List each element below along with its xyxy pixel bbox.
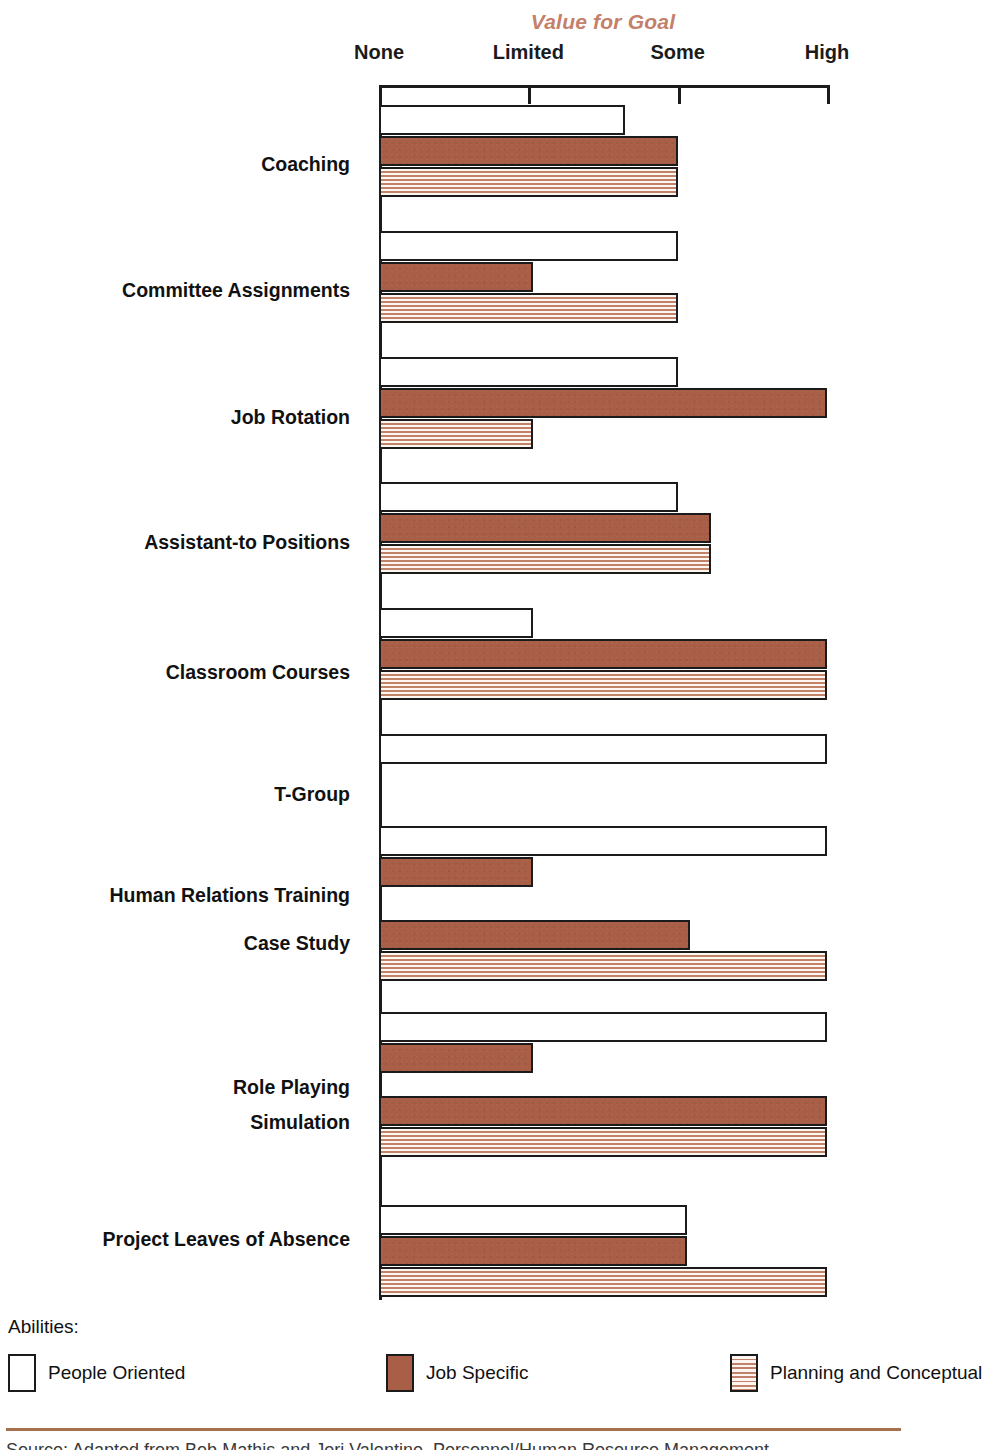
bar-people [379, 357, 678, 387]
legend-label-planning: Planning and Conceptual [770, 1362, 982, 1384]
bar-people [379, 608, 533, 638]
x-axis-tick-none [379, 85, 382, 104]
bar-planning [379, 419, 533, 449]
legend-items: People OrientedJob SpecificPlanning and … [8, 1350, 904, 1396]
plot-area: CoachingCommittee AssignmentsJob Rotatio… [0, 0, 912, 1310]
legend-title: Abilities: [8, 1316, 904, 1338]
legend-swatch-job [386, 1354, 414, 1392]
bar-planning [379, 1267, 827, 1297]
category-label: Project Leaves of Absence [103, 1230, 350, 1250]
bar-people [379, 105, 625, 135]
bar-job [379, 136, 678, 166]
category-label: Role Playing [233, 1078, 350, 1098]
x-axis-tick-some [678, 85, 681, 104]
bar-job [379, 920, 690, 950]
legend-swatch-planning [730, 1354, 758, 1392]
bar-planning [379, 670, 827, 700]
category-label: Job Rotation [231, 408, 350, 428]
bar-planning [379, 1127, 827, 1157]
bar-people [379, 1205, 687, 1235]
bar-job [379, 857, 533, 887]
bar-people [379, 482, 678, 512]
footer-divider [6, 1428, 901, 1431]
legend-swatch-people [8, 1354, 36, 1392]
legend-label-job: Job Specific [426, 1362, 528, 1384]
x-axis-tick-high [827, 85, 830, 104]
category-label: Simulation [250, 1113, 350, 1133]
legend-item-job[interactable]: Job Specific [386, 1350, 528, 1396]
category-label: Human Relations Training [109, 886, 350, 906]
category-label: Assistant-to Positions [144, 533, 350, 553]
bar-job [379, 1096, 827, 1126]
bar-job [379, 1043, 533, 1073]
bar-planning [379, 951, 827, 981]
bar-people [379, 1012, 827, 1042]
category-label: Case Study [244, 934, 350, 954]
legend-item-people[interactable]: People Oriented [8, 1350, 185, 1396]
bar-planning [379, 293, 678, 323]
bar-planning [379, 167, 678, 197]
bar-planning [379, 544, 711, 574]
category-label: Classroom Courses [166, 663, 350, 683]
category-label: Committee Assignments [122, 281, 350, 301]
bar-people [379, 734, 827, 764]
category-label: Coaching [261, 155, 350, 175]
bar-job [379, 388, 827, 418]
bar-job [379, 513, 711, 543]
bar-job [379, 1236, 687, 1266]
category-label: T-Group [274, 785, 350, 805]
x-axis-tick-limited [528, 85, 531, 104]
bar-people [379, 826, 827, 856]
source-note: Source: Adapted from Bob Mathis and Jeri… [6, 1440, 906, 1450]
bar-people [379, 231, 678, 261]
bar-job [379, 639, 827, 669]
legend: Abilities: People OrientedJob SpecificPl… [8, 1316, 904, 1396]
legend-item-planning[interactable]: Planning and Conceptual [730, 1350, 982, 1396]
legend-label-people: People Oriented [48, 1362, 185, 1384]
bar-job [379, 262, 533, 292]
